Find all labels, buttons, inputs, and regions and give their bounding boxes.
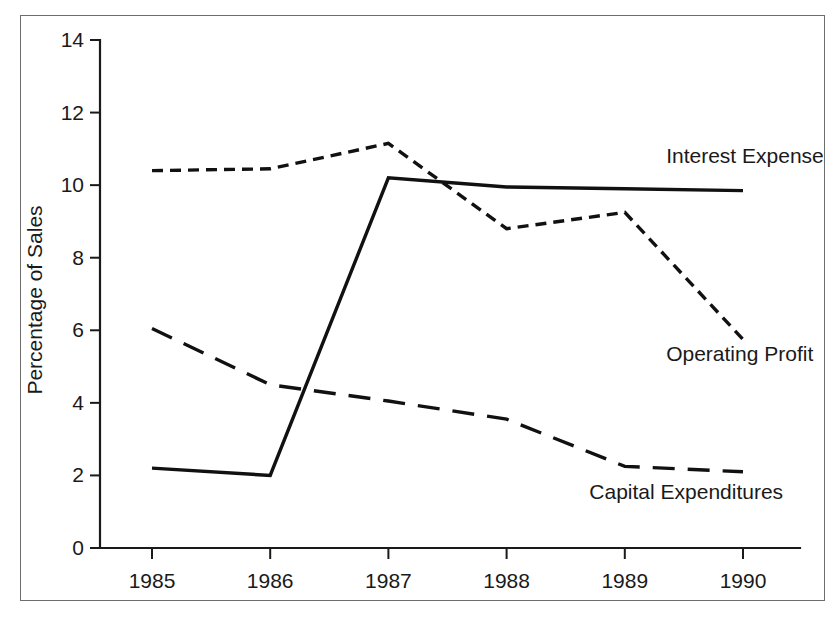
line-chart: 02468101214 198519861987198819891990 Per…	[0, 0, 838, 623]
y-tick-label: 14	[61, 28, 85, 51]
x-tick-label: 1989	[601, 569, 648, 592]
y-tick-label: 0	[72, 536, 84, 559]
chart-series-group	[152, 143, 743, 475]
x-tick-label: 1985	[129, 569, 176, 592]
x-axis-tick-labels: 198519861987198819891990	[129, 569, 767, 592]
y-axis-ticks	[90, 40, 100, 548]
series-line-interest-expense	[152, 178, 743, 476]
x-tick-label: 1990	[720, 569, 767, 592]
series-annotation: Operating Profit	[666, 342, 813, 365]
chart-figure: 02468101214 198519861987198819891990 Per…	[0, 0, 838, 623]
y-tick-label: 8	[72, 246, 84, 269]
series-annotation: Interest Expense	[666, 144, 824, 167]
y-tick-label: 6	[72, 318, 84, 341]
y-tick-label: 10	[61, 173, 84, 196]
x-tick-label: 1987	[365, 569, 412, 592]
series-line-operating-profit	[152, 143, 743, 339]
y-tick-label: 12	[61, 101, 84, 124]
series-annotation: Capital Expenditures	[589, 480, 783, 503]
y-tick-label: 2	[72, 463, 84, 486]
x-tick-label: 1986	[247, 569, 294, 592]
x-tick-label: 1988	[483, 569, 530, 592]
y-axis-tick-labels: 02468101214	[61, 28, 85, 559]
y-axis-title: Percentage of Sales	[23, 205, 46, 394]
x-axis-ticks	[152, 548, 743, 559]
y-tick-label: 4	[72, 391, 84, 414]
chart-annotations-group: Interest ExpenseOperating ProfitCapital …	[589, 144, 823, 503]
series-line-capital-expenditures	[152, 328, 743, 471]
